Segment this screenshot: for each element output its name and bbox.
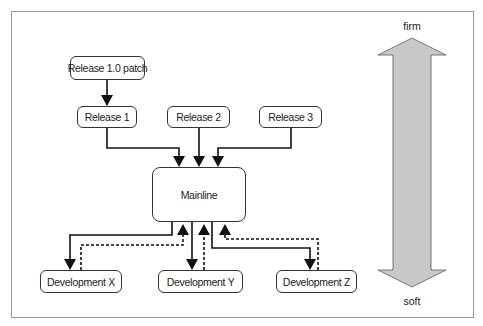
node-release-patch: Release 1.0 patch <box>70 56 145 80</box>
node-release-3: Release 3 <box>259 106 322 128</box>
node-dev-y: Development Y <box>158 270 243 293</box>
node-dev-z: Development Z <box>276 270 357 293</box>
node-release-1: Release 1 <box>77 106 137 128</box>
edge-devx-mainline <box>81 232 183 270</box>
scale-label-firm: firm <box>403 20 421 32</box>
edge-mainline-devx <box>70 222 172 260</box>
scale-label-soft: soft <box>404 295 421 307</box>
edge-devz-mainline <box>225 232 318 270</box>
edge-release3-mainline <box>218 128 291 158</box>
node-release-2: Release 2 <box>167 106 230 128</box>
firm-soft-scale-arrow <box>378 38 446 287</box>
node-mainline: Mainline <box>152 167 246 222</box>
node-dev-x: Development X <box>40 270 122 293</box>
edge-release1-mainline <box>107 128 179 158</box>
